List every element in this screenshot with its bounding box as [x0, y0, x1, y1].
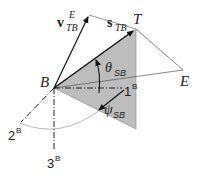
point-E-label: E	[179, 73, 189, 89]
axis-2-superscript: B	[16, 126, 21, 135]
velocity-label: v	[57, 15, 64, 30]
velocity-superscript: E	[68, 9, 75, 20]
azimuth-angle-label: ψ	[104, 102, 113, 117]
velocity-subscript: TB	[66, 22, 78, 33]
elevation-angle-subscript: SB	[114, 68, 126, 78]
axis-2-line	[21, 88, 54, 122]
geometry-diagram: B T E v TB E s TB θ SB ψ SB 1 B 2 B 3 B	[0, 0, 200, 180]
line-v-tip-T	[89, 15, 136, 29]
point-B-label: B	[40, 74, 49, 90]
axis-1-label: 1	[124, 84, 131, 99]
elevation-angle-label: θ	[105, 60, 112, 75]
horizontal-arc	[20, 110, 100, 129]
line-of-sight-subscript: TB	[115, 22, 127, 33]
point-T-label: T	[133, 11, 143, 27]
azimuth-angle-subscript: SB	[113, 110, 125, 120]
line-T-E	[136, 29, 183, 70]
axis-2-label: 2	[8, 128, 15, 143]
line-of-sight-label: s	[107, 15, 113, 30]
axis-3-superscript: B	[55, 154, 60, 163]
axis-3-label: 3	[47, 156, 54, 171]
axis-1-superscript: B	[132, 82, 137, 91]
